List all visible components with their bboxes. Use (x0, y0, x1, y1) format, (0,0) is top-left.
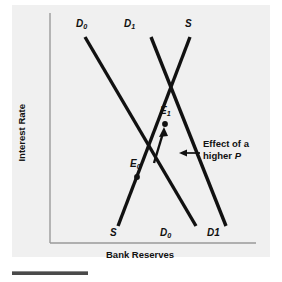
curve-label-d0-top-sub: 0 (83, 22, 87, 31)
curve-label-d0-bottom-sub: 0 (167, 231, 171, 240)
effect-annotation-line2: higher P (203, 150, 249, 162)
curve-label-s-bottom: S (110, 228, 117, 239)
equilibrium-point-e0 (134, 174, 140, 180)
equilibrium-shift-arrow-head (159, 127, 168, 137)
effect-annotation: Effect of a higher P (203, 138, 249, 162)
curve-label-d1-bottom-text: D1 (207, 227, 220, 238)
effect-arrow-head (179, 150, 187, 157)
equilibrium-label-e1-sub: 1 (167, 109, 171, 118)
curve-label-d1-bottom: D1 (207, 228, 220, 239)
equilibrium-label-e0: E0 (130, 159, 141, 170)
equilibrium-point-e1 (162, 121, 168, 127)
equilibrium-label-e1: E1 (160, 106, 171, 117)
curve-label-s-bottom-text: S (110, 227, 117, 238)
equilibrium-shift-arrow-line (154, 133, 163, 163)
supply-demand-figure: D0 D1 S S D0 D1 E1 E0 Effect of a higher… (0, 0, 282, 282)
curve-label-s-top: S (185, 19, 192, 30)
effect-annotation-line2-italic: P (235, 150, 241, 161)
x-axis-title: Bank Reserves (106, 250, 174, 260)
equilibrium-label-e0-sub: 0 (137, 162, 141, 171)
y-axis-title: Interest Rate (17, 91, 27, 175)
caption-rule (12, 271, 88, 275)
curve-label-d1-top-sub: 1 (131, 22, 135, 31)
effect-annotation-line2-prefix: higher (203, 150, 235, 161)
curve-label-d0-bottom: D0 (160, 228, 171, 239)
equilibrium-label-e1-text: E (160, 105, 167, 116)
effect-annotation-line1: Effect of a (203, 138, 249, 150)
curve-label-d0-top: D0 (76, 19, 87, 30)
equilibrium-label-e0-text: E (130, 158, 137, 169)
curve-label-s-top-text: S (185, 18, 192, 29)
curve-label-d1-top: D1 (124, 19, 135, 30)
